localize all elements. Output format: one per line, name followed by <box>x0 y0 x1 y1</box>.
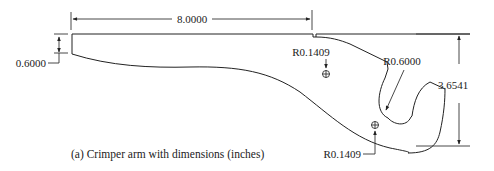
hook-radius-label: R0.6000 <box>383 55 421 67</box>
crimper-arm-drawing: 8.0000 0.6000 3.6541 R0.1409 R0.6000 <box>0 0 494 171</box>
dim-height-label: 3.6541 <box>438 79 468 91</box>
lower-radius-label: R0.1409 <box>323 148 361 160</box>
crimper-arm-outline <box>72 34 470 153</box>
dimension-overall-length: 8.0000 <box>71 10 312 30</box>
dim-length-label: 8.0000 <box>177 13 208 25</box>
figure-caption: (a) Crimper arm with dimensions (inches) <box>71 148 264 161</box>
upper-radius-label: R0.1409 <box>292 46 330 58</box>
dimension-thickness: 0.6000 <box>16 34 68 69</box>
center-mark-icon <box>371 121 379 129</box>
upper-fillet-callout: R0.1409 <box>292 46 330 78</box>
dim-thickness-label: 0.6000 <box>16 57 47 69</box>
center-mark-icon <box>322 70 330 78</box>
dimension-overall-height: 3.6541 <box>416 34 470 146</box>
lower-fillet-callout: R0.1409 <box>323 121 379 160</box>
